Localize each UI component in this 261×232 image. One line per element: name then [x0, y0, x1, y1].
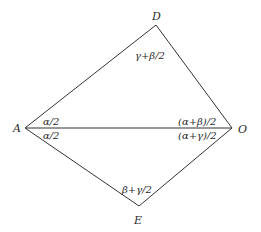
- angle-label-a-upper: α/2: [43, 116, 59, 127]
- edge-a-d: [25, 25, 156, 128]
- angle-label-o-upper: (α+β)/2: [178, 116, 216, 127]
- vertex-label-o: O: [238, 123, 247, 136]
- vertex-label-a: A: [12, 122, 21, 135]
- angle-label-a-lower: α/2: [43, 130, 59, 141]
- angle-label-d: γ+β/2: [135, 50, 165, 61]
- angle-label-e: β+γ/2: [121, 184, 152, 195]
- edge-d-o: [156, 25, 232, 128]
- geometry-diagram: D E A O γ+β/2 α/2 α/2 (α+β)/2 (α+γ)/2 β+…: [0, 0, 261, 232]
- angle-label-o-lower: (α+γ)/2: [178, 130, 217, 141]
- vertex-label-d: D: [151, 10, 161, 23]
- vertex-label-e: E: [133, 214, 142, 227]
